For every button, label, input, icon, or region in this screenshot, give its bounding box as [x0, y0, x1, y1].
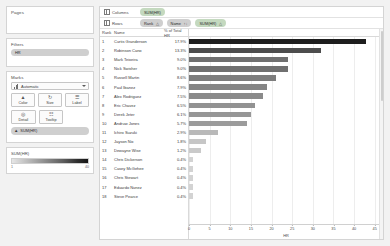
- name-cell[interactable]: Eric Chavez: [112, 101, 162, 110]
- pct-cell[interactable]: 13.3%: [162, 46, 188, 55]
- pct-cell[interactable]: 6.1%: [162, 110, 188, 119]
- bar-row[interactable]: [189, 192, 383, 201]
- pct-cell[interactable]: 0.4%: [162, 155, 188, 164]
- color-legend-gradient[interactable]: [11, 158, 89, 164]
- filters-card-dropzone[interactable]: HR: [7, 49, 93, 60]
- pct-cell[interactable]: 0.4%: [162, 173, 188, 182]
- pct-cell[interactable]: 17.9%: [162, 37, 188, 46]
- pct-cell[interactable]: 0.4%: [162, 183, 188, 192]
- rank-cell[interactable]: 11: [100, 128, 112, 137]
- columns-pill-sum-hr[interactable]: SUM(HR): [140, 8, 165, 16]
- name-cell[interactable]: Nick Swisher: [112, 64, 162, 73]
- bar[interactable]: [189, 130, 218, 135]
- name-cell[interactable]: Alex Rodriguez: [112, 92, 162, 101]
- rank-cell[interactable]: 14: [100, 155, 112, 164]
- rank-cell[interactable]: 3: [100, 55, 112, 64]
- rank-cell[interactable]: 15: [100, 164, 112, 173]
- bar[interactable]: [189, 166, 193, 171]
- bar-row[interactable]: [189, 101, 383, 110]
- bar[interactable]: [189, 139, 206, 144]
- bar-row[interactable]: [189, 146, 383, 155]
- name-cell[interactable]: Andruw Jones: [112, 119, 162, 128]
- bar[interactable]: [189, 184, 193, 189]
- bar[interactable]: [189, 121, 247, 126]
- pct-cell[interactable]: 9.0%: [162, 55, 188, 64]
- vertical-scrollbar[interactable]: [379, 29, 383, 239]
- name-cell[interactable]: Curtis Granderson: [112, 37, 162, 46]
- rows-pill-rank[interactable]: Rank △: [140, 19, 163, 27]
- bar[interactable]: [189, 75, 276, 80]
- name-cell[interactable]: Jayson Nix: [112, 137, 162, 146]
- name-cell[interactable]: Chris Stewart: [112, 173, 162, 182]
- bar-row[interactable]: [189, 173, 383, 182]
- bar[interactable]: [189, 84, 267, 89]
- rank-cell[interactable]: 4: [100, 64, 112, 73]
- bar-row[interactable]: [189, 46, 383, 55]
- pct-cell[interactable]: 2.9%: [162, 128, 188, 137]
- name-cell[interactable]: Casey McGehee: [112, 164, 162, 173]
- bar-row[interactable]: [189, 128, 383, 137]
- marks-size-button[interactable]: ↻ Size: [38, 93, 62, 107]
- pct-cell[interactable]: 9.0%: [162, 64, 188, 73]
- pct-cell[interactable]: 1.2%: [162, 146, 188, 155]
- rank-cell[interactable]: 5: [100, 73, 112, 82]
- bar[interactable]: [189, 148, 201, 153]
- name-cell[interactable]: Dewayne Wise: [112, 146, 162, 155]
- mark-type-dropdown[interactable]: Automatic: [11, 82, 89, 90]
- bar[interactable]: [189, 93, 263, 98]
- bar[interactable]: [189, 175, 193, 180]
- rank-cell[interactable]: 16: [100, 173, 112, 182]
- vertical-scrollbar-thumb[interactable]: [381, 31, 383, 101]
- rank-cell[interactable]: 6: [100, 82, 112, 91]
- bar-row[interactable]: [189, 137, 383, 146]
- bar-row[interactable]: [189, 64, 383, 73]
- marks-encoding-color-sum-hr[interactable]: ▲ SUM(HR): [11, 127, 89, 135]
- marks-color-button[interactable]: ▲ Color: [11, 93, 35, 107]
- pct-cell[interactable]: 0.4%: [162, 192, 188, 201]
- rank-cell[interactable]: 12: [100, 137, 112, 146]
- filter-pill-hr[interactable]: HR: [11, 49, 89, 56]
- pct-cell[interactable]: 8.6%: [162, 73, 188, 82]
- columns-shelf[interactable]: Columns SUM(HR): [100, 7, 383, 18]
- bar-row[interactable]: [189, 183, 383, 192]
- rows-pill-sum-hr[interactable]: SUM(HR) △: [195, 19, 225, 27]
- name-cell[interactable]: Derek Jeter: [112, 110, 162, 119]
- pct-cell[interactable]: 7.9%: [162, 82, 188, 91]
- bar[interactable]: [189, 57, 288, 62]
- rank-cell[interactable]: 8: [100, 101, 112, 110]
- name-cell[interactable]: Russell Martin: [112, 73, 162, 82]
- marks-tooltip-button[interactable]: ☷ Tooltip: [39, 110, 64, 124]
- bar[interactable]: [189, 157, 193, 162]
- rows-pill-name[interactable]: Name ↑↓: [167, 19, 192, 27]
- marks-detail-button[interactable]: ◎ Detail: [11, 110, 36, 124]
- rank-cell[interactable]: 2: [100, 46, 112, 55]
- bar-row[interactable]: [189, 92, 383, 101]
- pct-cell[interactable]: 1.8%: [162, 137, 188, 146]
- rank-cell[interactable]: 13: [100, 146, 112, 155]
- marks-label-button[interactable]: ☰ Label: [65, 93, 89, 107]
- bar[interactable]: [189, 48, 321, 53]
- name-cell[interactable]: Robinson Cano: [112, 46, 162, 55]
- bar-row[interactable]: [189, 73, 383, 82]
- rank-cell[interactable]: 7: [100, 92, 112, 101]
- name-cell[interactable]: Ichiro Suzuki: [112, 128, 162, 137]
- bar[interactable]: [189, 66, 288, 71]
- name-cell[interactable]: Mark Teixeira: [112, 55, 162, 64]
- rank-cell[interactable]: 1: [100, 37, 112, 46]
- bar-row[interactable]: [189, 55, 383, 64]
- pct-cell[interactable]: 6.5%: [162, 101, 188, 110]
- pct-cell[interactable]: 0.4%: [162, 164, 188, 173]
- rank-cell[interactable]: 17: [100, 183, 112, 192]
- rank-cell[interactable]: 10: [100, 119, 112, 128]
- bar-row[interactable]: [189, 164, 383, 173]
- bar-row[interactable]: [189, 155, 383, 164]
- rank-cell[interactable]: 18: [100, 192, 112, 201]
- pct-cell[interactable]: 7.5%: [162, 92, 188, 101]
- bar[interactable]: [189, 39, 366, 44]
- bar-row[interactable]: [189, 110, 383, 119]
- name-cell[interactable]: Steve Pearce: [112, 192, 162, 201]
- name-cell[interactable]: Eduardo Nunez: [112, 183, 162, 192]
- bar[interactable]: [189, 193, 193, 198]
- pages-card-dropzone[interactable]: [7, 17, 93, 21]
- name-cell[interactable]: Paul Ibanez: [112, 82, 162, 91]
